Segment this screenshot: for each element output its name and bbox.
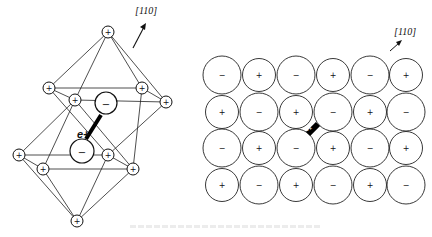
minus-sign: − bbox=[330, 181, 337, 190]
octahedron-edge bbox=[77, 169, 133, 221]
minus-sign: − bbox=[367, 71, 374, 80]
square-lattice-panel: −+−+−++−+−+−−+−+−++−+−+−e+ bbox=[203, 56, 425, 204]
cation: + bbox=[71, 215, 83, 227]
cation: + bbox=[127, 163, 139, 175]
plus-sign: + bbox=[330, 144, 337, 153]
minus-sign: − bbox=[293, 71, 300, 80]
arrow-shaft bbox=[390, 43, 399, 51]
octahedron-edge bbox=[75, 32, 108, 100]
cation: + bbox=[317, 132, 350, 165]
plus-sign: + bbox=[367, 108, 374, 117]
plus-sign: + bbox=[219, 108, 226, 117]
minus-sign: − bbox=[403, 108, 410, 117]
positron-label: e+ bbox=[77, 128, 90, 140]
cation: + bbox=[160, 96, 172, 108]
plus-sign: + bbox=[367, 181, 374, 190]
minus-sign: − bbox=[102, 99, 110, 110]
cation: + bbox=[37, 163, 49, 175]
cation: + bbox=[354, 169, 387, 202]
minus-sign: − bbox=[219, 144, 226, 153]
anion: − bbox=[351, 56, 389, 94]
minus-sign: − bbox=[219, 71, 226, 80]
plus-sign: + bbox=[293, 181, 300, 190]
cation: + bbox=[243, 132, 276, 165]
plus-sign: + bbox=[40, 165, 47, 174]
plus-sign: + bbox=[139, 84, 146, 93]
cation: + bbox=[243, 59, 276, 92]
octahedron-edge bbox=[43, 169, 77, 221]
plus-sign: + bbox=[256, 71, 263, 80]
anion: − bbox=[240, 93, 278, 131]
direction-label-left: [110] bbox=[135, 5, 157, 16]
cation: + bbox=[354, 96, 387, 129]
plus-sign: + bbox=[105, 151, 112, 160]
anion: − bbox=[203, 129, 241, 167]
figure: −− e+ ++++++++++ [110] −+−+−++−+−+−−+−+−… bbox=[0, 0, 432, 237]
plus-sign: + bbox=[219, 181, 226, 190]
plus-sign: + bbox=[163, 98, 170, 107]
plus-sign: + bbox=[74, 217, 81, 226]
octahedron-edge bbox=[133, 88, 142, 169]
plus-sign: + bbox=[105, 28, 112, 37]
figure-canvas: −− e+ ++++++++++ [110] −+−+−++−+−+−−+−+−… bbox=[0, 0, 432, 237]
direction-label-right: [110] bbox=[394, 26, 416, 37]
anion: − bbox=[203, 56, 241, 94]
arrow-shaft bbox=[133, 27, 144, 48]
minus-sign: − bbox=[256, 181, 263, 190]
anion: − bbox=[240, 166, 278, 204]
octahedron-edge bbox=[108, 102, 166, 155]
cation: + bbox=[43, 82, 55, 94]
cation: + bbox=[13, 149, 25, 161]
octahedron-edge bbox=[75, 100, 166, 102]
plus-sign: + bbox=[130, 165, 137, 174]
octahedral-stacking-panel: −− e+ ++++++++++ bbox=[13, 26, 172, 227]
anion: − bbox=[277, 56, 315, 94]
octahedron-edge bbox=[77, 155, 108, 221]
anion: − bbox=[351, 129, 389, 167]
positron-marker: e+ bbox=[306, 124, 318, 134]
anion: − bbox=[95, 92, 117, 114]
plus-sign: + bbox=[293, 108, 300, 117]
anion: − bbox=[314, 93, 352, 131]
anion: − bbox=[70, 139, 94, 163]
cation: + bbox=[390, 59, 423, 92]
cation: + bbox=[280, 169, 313, 202]
positron-path: e+ bbox=[77, 115, 101, 140]
plus-sign: + bbox=[46, 84, 53, 93]
octahedron-edge bbox=[43, 100, 75, 169]
positron-label: e+ bbox=[306, 126, 313, 132]
plus-sign: + bbox=[330, 71, 337, 80]
minus-sign: − bbox=[78, 147, 86, 158]
plus-sign: + bbox=[16, 151, 23, 160]
plus-sign: + bbox=[72, 96, 79, 105]
plus-sign: + bbox=[256, 144, 263, 153]
cation: + bbox=[390, 132, 423, 165]
minus-sign: − bbox=[403, 181, 410, 190]
anion: − bbox=[387, 93, 425, 131]
cation: + bbox=[69, 94, 81, 106]
direction-arrow-left: [110] bbox=[133, 5, 157, 48]
octahedron-edge bbox=[49, 32, 108, 88]
anion: − bbox=[387, 166, 425, 204]
cation: + bbox=[136, 82, 148, 94]
plus-sign: + bbox=[403, 144, 410, 153]
minus-sign: − bbox=[367, 144, 374, 153]
cation: + bbox=[317, 59, 350, 92]
minus-sign: − bbox=[330, 108, 337, 117]
cation: + bbox=[280, 96, 313, 129]
anion: − bbox=[314, 166, 352, 204]
figure-caption bbox=[130, 225, 320, 228]
plus-sign: + bbox=[403, 71, 410, 80]
cation: + bbox=[102, 149, 114, 161]
minus-sign: − bbox=[256, 108, 263, 117]
direction-arrow-right: [110] bbox=[390, 26, 416, 51]
cation: + bbox=[206, 96, 239, 129]
octahedron-edge bbox=[19, 100, 75, 155]
cation: + bbox=[102, 26, 114, 38]
cation: + bbox=[206, 169, 239, 202]
minus-sign: − bbox=[293, 144, 300, 153]
